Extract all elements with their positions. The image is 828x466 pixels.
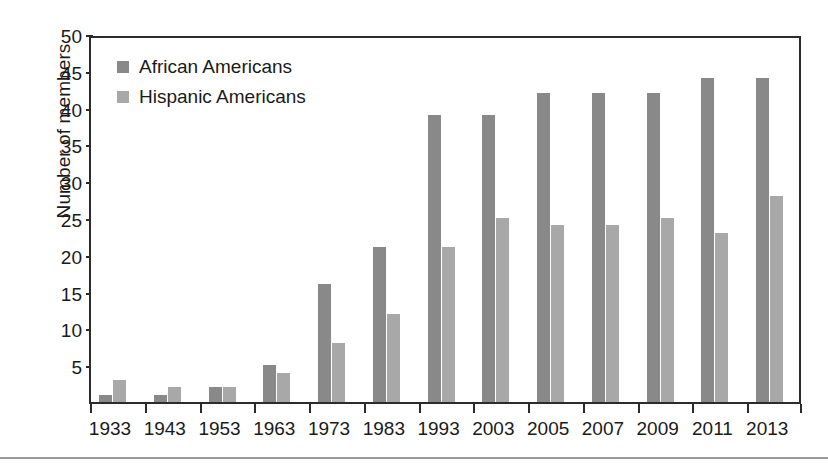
legend-swatch-icon (117, 91, 129, 103)
y-axis-tick-label: 25 (30, 211, 82, 230)
x-axis-tick-mark (90, 404, 92, 413)
bar (537, 93, 550, 402)
bar (551, 225, 564, 402)
bar (701, 78, 714, 402)
y-axis-tick-label: 45 (30, 63, 82, 82)
x-axis-tick-label: 2013 (732, 418, 802, 440)
y-axis-tick-label: 5 (30, 358, 82, 377)
y-axis-tick-label: 15 (30, 284, 82, 303)
x-axis-tick-mark (528, 404, 530, 413)
bar (387, 314, 400, 402)
bar-group (693, 38, 748, 402)
y-axis-tick-label: 30 (30, 174, 82, 193)
y-axis-tick-label: 20 (30, 247, 82, 266)
bar (482, 115, 495, 402)
x-axis-tick-mark (638, 404, 640, 413)
chart-legend: African AmericansHispanic Americans (117, 52, 377, 112)
bar-group (584, 38, 639, 402)
bar (496, 218, 509, 402)
bar (756, 78, 769, 402)
bar (113, 380, 126, 402)
bar-group (529, 38, 584, 402)
bar (263, 365, 276, 402)
x-axis-tick-mark (200, 404, 202, 413)
x-axis-tick-mark (364, 404, 366, 413)
legend-item: African Americans (117, 52, 377, 82)
x-axis-tick-mark (254, 404, 256, 413)
bar (209, 387, 222, 402)
page-divider (0, 457, 828, 459)
bar (770, 196, 783, 402)
bar (428, 115, 441, 402)
bar (661, 218, 674, 402)
bar-group (639, 38, 694, 402)
legend-label: African Americans (139, 56, 292, 78)
bar (277, 373, 290, 402)
bar (592, 93, 605, 402)
bar (223, 387, 236, 402)
legend-label: Hispanic Americans (139, 86, 306, 108)
bar-group (748, 38, 803, 402)
x-axis-tick-mark (419, 404, 421, 413)
x-axis-tick-mark (145, 404, 147, 413)
bar (442, 247, 455, 402)
y-axis-tick-label: 10 (30, 321, 82, 340)
x-axis-tick-mark (800, 404, 802, 413)
x-axis-tick-mark (747, 404, 749, 413)
bar-chart-figure: Number of members 5101520253035404550 19… (0, 0, 828, 466)
bar (647, 93, 660, 402)
x-axis-tick-mark (309, 404, 311, 413)
legend-swatch-icon (117, 61, 129, 73)
y-axis-tick-labels: 5101520253035404550 (30, 36, 82, 404)
bar (606, 225, 619, 402)
bar-group (420, 38, 475, 402)
bar (154, 395, 167, 402)
x-axis-tick-mark (692, 404, 694, 413)
bar (99, 395, 112, 402)
y-axis-tick-label: 35 (30, 137, 82, 156)
bar (332, 343, 345, 402)
bar (373, 247, 386, 402)
bar (318, 284, 331, 402)
bar (715, 233, 728, 402)
y-axis-tick-label: 50 (30, 27, 82, 46)
x-axis-tick-mark (473, 404, 475, 413)
bar (168, 387, 181, 402)
x-axis-tick-mark (583, 404, 585, 413)
bar-group (474, 38, 529, 402)
legend-item: Hispanic Americans (117, 82, 377, 112)
y-axis-tick-label: 40 (30, 100, 82, 119)
